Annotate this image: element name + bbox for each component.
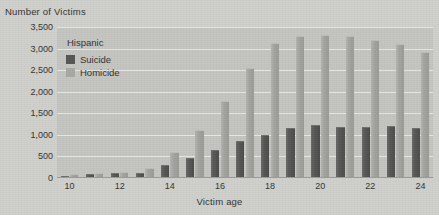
bar-suicide	[412, 128, 420, 178]
chart-figure: Number of Victims 05001,0001,5002,0002,5…	[0, 0, 439, 215]
y-tick-label: 3,500	[5, 23, 53, 32]
bar-homicide	[170, 152, 178, 178]
bar-suicide	[186, 158, 194, 178]
x-axis-title: Victim age	[0, 196, 439, 207]
bar-suicide	[161, 165, 169, 179]
bar-suicide	[286, 128, 294, 178]
bar-group	[333, 27, 358, 178]
bar-homicide	[195, 130, 203, 178]
bar-homicide	[346, 36, 354, 178]
bar-suicide	[336, 127, 344, 178]
legend-label-homicide: Homicide	[80, 68, 120, 77]
x-axis-tick-labels: 1012141618202224	[57, 181, 433, 194]
y-axis-title: Number of Victims	[5, 6, 86, 17]
bar-group	[132, 27, 157, 178]
y-tick-label: 1,500	[5, 109, 53, 118]
bar-suicide	[362, 127, 370, 178]
legend-label-suicide: Suicide	[80, 55, 111, 64]
legend: Hispanic Suicide Homicide	[66, 37, 120, 81]
bar-group	[383, 27, 408, 178]
bar-suicide	[387, 126, 395, 178]
bar-homicide	[246, 68, 254, 178]
y-tick-label: 500	[5, 152, 53, 161]
legend-item-homicide: Homicide	[66, 68, 120, 77]
y-tick-label: 1,000	[5, 131, 53, 140]
x-tick-label: 24	[415, 181, 425, 191]
bar-group	[283, 27, 308, 178]
bar-homicide	[271, 43, 279, 178]
bar-suicide	[211, 150, 219, 178]
bar-group	[308, 27, 333, 178]
bar-suicide	[311, 125, 319, 178]
bar-homicide	[221, 101, 229, 178]
bar-homicide	[396, 44, 404, 178]
legend-swatch-suicide	[66, 55, 75, 64]
x-tick-label: 12	[115, 181, 125, 191]
bar-homicide	[321, 35, 329, 178]
legend-swatch-homicide	[66, 68, 75, 77]
legend-item-suicide: Suicide	[66, 55, 120, 64]
bar-group	[232, 27, 257, 178]
x-tick-label: 18	[265, 181, 275, 191]
bar-group	[157, 27, 182, 178]
bar-suicide	[261, 135, 269, 178]
bar-group	[358, 27, 383, 178]
bar-group	[207, 27, 232, 178]
x-tick-label: 14	[165, 181, 175, 191]
legend-title: Hispanic	[67, 37, 120, 48]
y-tick-label: 3,000	[5, 45, 53, 54]
x-tick-label: 16	[215, 181, 225, 191]
y-axis-tick-labels: 05001,0001,5002,0002,5003,0003,500	[3, 27, 53, 178]
bar-homicide	[421, 52, 429, 178]
y-tick-label: 2,500	[5, 66, 53, 75]
x-tick-label: 20	[315, 181, 325, 191]
bar-homicide	[371, 40, 379, 178]
bar-homicide	[296, 36, 304, 178]
bar-suicide	[236, 141, 244, 178]
bar-group	[258, 27, 283, 178]
bar-group	[408, 27, 433, 178]
y-tick-label: 2,000	[5, 88, 53, 97]
y-tick-label: 0	[5, 174, 53, 183]
x-tick-label: 10	[65, 181, 75, 191]
bar-group	[182, 27, 207, 178]
axis-baseline	[57, 177, 433, 178]
x-tick-label: 22	[365, 181, 375, 191]
